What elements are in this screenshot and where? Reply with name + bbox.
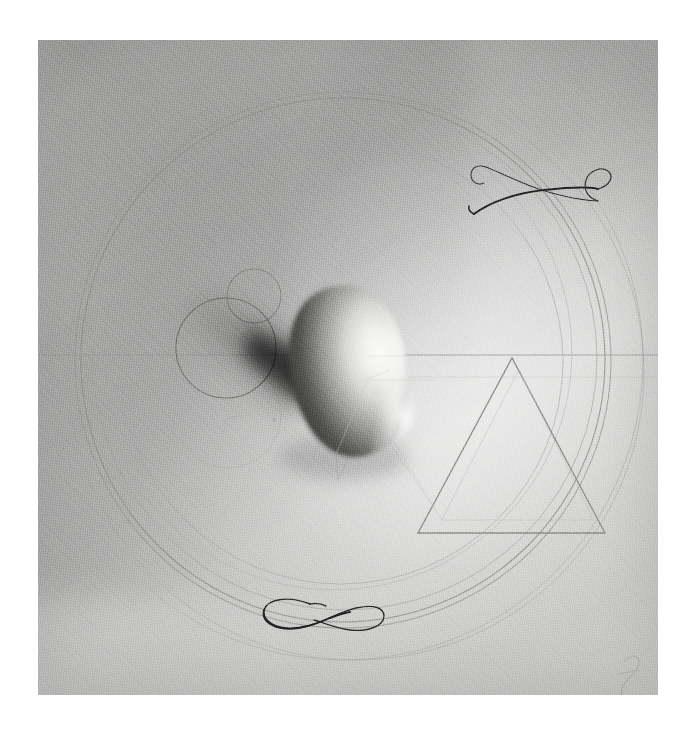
paper-grain-texture bbox=[38, 40, 658, 695]
artwork-plate bbox=[38, 40, 658, 695]
artwork-title: Untitled drawing — egg with geometric co… bbox=[0, 0, 1, 1]
page-root: Untitled drawing — egg with geometric co… bbox=[0, 0, 693, 740]
